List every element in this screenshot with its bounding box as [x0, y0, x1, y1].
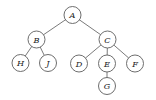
tree-node-b: B [28, 31, 45, 48]
tree-canvas: ABCHJDEFG [0, 0, 156, 100]
tree-node-h: H [12, 55, 29, 72]
node-label-e: E [103, 59, 110, 69]
tree-edge-b-j [40, 47, 44, 55]
node-label-h: H [16, 58, 25, 68]
tree-node-j: J [40, 55, 57, 72]
node-label-b: B [32, 35, 39, 45]
node-label-d: D [75, 59, 83, 69]
node-label-c: C [104, 35, 111, 45]
tree-node-c: C [99, 31, 116, 48]
node-layer: ABCHJDEFG [12, 7, 144, 95]
tree-node-g: G [99, 78, 116, 95]
tree-edge-a-b [44, 20, 66, 35]
tree-node-f: F [127, 55, 144, 72]
tree-edge-b-h [25, 47, 31, 56]
tree-edge-c-f [114, 45, 129, 58]
tree-edge-a-c [79, 20, 100, 35]
tree-diagram: ABCHJDEFG [0, 0, 156, 100]
tree-edge-c-d [86, 45, 102, 58]
node-label-a: A [69, 10, 76, 20]
tree-node-d: D [71, 55, 88, 72]
node-label-g: G [104, 81, 111, 91]
tree-node-e: E [99, 55, 116, 72]
tree-node-a: A [64, 7, 81, 24]
node-label-f: F [131, 59, 138, 69]
